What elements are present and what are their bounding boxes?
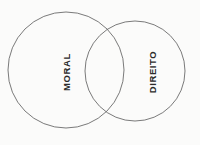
venn-label-moral: MORAL <box>61 53 72 91</box>
venn-diagram <box>0 0 200 145</box>
venn-circle-direito <box>85 21 185 121</box>
venn-label-direito: DIREITO <box>147 51 158 94</box>
scanned-page: MORAL DIREITO <box>0 0 200 145</box>
